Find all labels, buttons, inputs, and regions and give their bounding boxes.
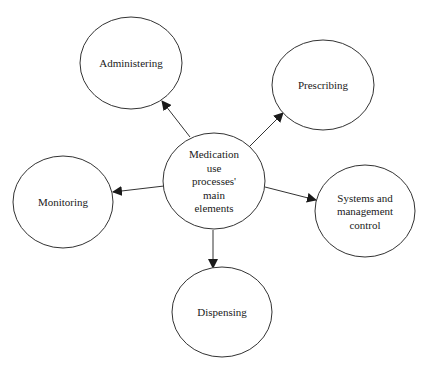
center-node-label: processes'	[192, 175, 236, 187]
node-dispensing-label: Dispensing	[197, 306, 247, 318]
node-systems-label: Systems and	[337, 192, 393, 204]
medication-process-diagram: Medicationuseprocesses'mainelementsAdmin…	[0, 0, 432, 375]
node-dispensing: Dispensing	[172, 267, 272, 357]
arrow-monitoring	[113, 186, 164, 192]
arrow-prescribing	[249, 113, 283, 147]
center-node-label: use	[207, 162, 222, 174]
node-systems-label: control	[349, 219, 380, 231]
node-administering: Administering	[80, 17, 182, 109]
node-systems: Systems andmanagementcontrol	[315, 165, 415, 257]
arrow-administering	[162, 101, 190, 137]
center-node-label: elements	[194, 202, 233, 214]
node-administering-label: Administering	[99, 57, 163, 69]
center-node-label: main	[203, 189, 225, 201]
node-systems-label: management	[337, 205, 393, 217]
center-node: Medicationuseprocesses'mainelements	[163, 133, 265, 229]
arrow-systems	[265, 187, 316, 200]
center-node-label: Medication	[189, 148, 240, 160]
node-monitoring: Monitoring	[13, 156, 113, 248]
node-prescribing-label: Prescribing	[298, 79, 349, 91]
node-monitoring-label: Monitoring	[38, 196, 89, 208]
node-prescribing: Prescribing	[272, 40, 374, 130]
nodes-group: Medicationuseprocesses'mainelementsAdmin…	[13, 17, 415, 357]
